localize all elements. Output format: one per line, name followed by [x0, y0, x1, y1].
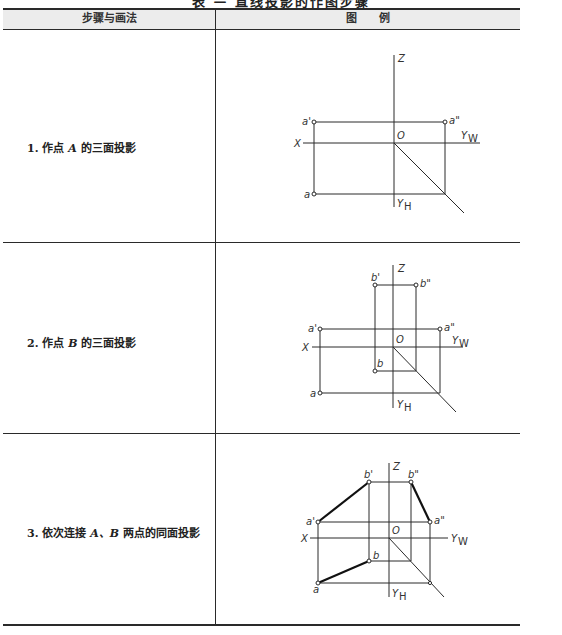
label-a-top-1: a [304, 189, 310, 200]
label-x-1: X [293, 138, 302, 149]
label-yh-sub-1: H [404, 201, 412, 212]
label-x-3: X [300, 533, 309, 544]
label-a-side-1: a" [449, 115, 460, 126]
label-o-3: O [392, 525, 400, 536]
label-z-3: Z [392, 461, 401, 472]
label-yw-sub-2: W [459, 338, 469, 349]
label-yh-sub-3: H [399, 591, 407, 602]
label-a-top-2: a [310, 388, 316, 399]
label-b-front-3: b' [364, 469, 373, 480]
label-b-top-2: b [377, 358, 383, 369]
projection-diagrams: Z X O Y W Y H a' a" a Z X O Y W Y H a' a… [0, 0, 562, 635]
diagram-point-b [312, 265, 463, 412]
label-b-side-2: b" [420, 278, 431, 289]
label-x-2: X [301, 342, 310, 353]
label-yw-sub-1: W [468, 133, 478, 144]
label-yh-2: Y [397, 399, 404, 410]
label-yh-1: Y [397, 198, 404, 209]
label-o-1: O [397, 130, 405, 141]
label-yw-3: Y [451, 533, 458, 544]
label-a-top-3: a [313, 584, 319, 595]
label-a-side-3: a" [434, 515, 445, 526]
label-b-side-3: b" [408, 469, 419, 480]
label-a-front-2: a' [308, 323, 317, 334]
label-a-front-1: a' [302, 116, 311, 127]
label-o-2: O [396, 334, 404, 345]
label-yw-sub-3: W [458, 536, 468, 547]
label-z-2: Z [397, 263, 406, 274]
label-a-side-2: a" [444, 322, 455, 333]
label-a-front-3: a' [306, 516, 315, 527]
label-z-1: Z [397, 53, 406, 64]
label-yh-sub-2: H [404, 402, 412, 413]
label-yw-1: Y [461, 130, 468, 141]
label-yh-3: Y [392, 588, 399, 599]
label-b-front-2: b' [371, 272, 380, 283]
diagram-line-ab [310, 463, 448, 597]
diagram-point-a [303, 55, 480, 213]
label-yw-2: Y [452, 335, 459, 346]
label-b-top-3: b [373, 550, 379, 561]
